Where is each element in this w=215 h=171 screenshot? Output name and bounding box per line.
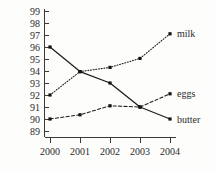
- data-point-milk: [48, 93, 51, 96]
- y-tick-label: 98: [30, 18, 40, 29]
- y-axis-tick-marks: [45, 12, 49, 132]
- data-point-milk: [138, 57, 141, 60]
- x-tick-label: 2002: [100, 146, 120, 157]
- data-point-butter: [138, 105, 141, 108]
- line-chart: 8990919293949596979899 20002001200220032…: [0, 0, 215, 171]
- x-tick-label: 2003: [130, 146, 150, 157]
- data-point-eggs: [78, 113, 81, 116]
- data-point-butter: [78, 70, 81, 73]
- x-tick-label: 2000: [40, 146, 60, 157]
- y-tick-label: 96: [30, 42, 40, 53]
- y-tick-label: 91: [30, 102, 40, 113]
- y-axis-tick-labels: 8990919293949596979899: [30, 6, 40, 137]
- y-tick-label: 93: [30, 78, 40, 89]
- series-line-milk: [50, 34, 170, 95]
- series-markers: [48, 32, 171, 120]
- series-label-milk: milk: [177, 28, 195, 39]
- data-point-butter: [168, 117, 171, 120]
- data-point-eggs: [48, 117, 51, 120]
- y-tick-label: 92: [30, 90, 40, 101]
- x-axis-tick-marks: [51, 138, 171, 143]
- x-tick-label: 2004: [160, 146, 180, 157]
- y-tick-label: 99: [30, 6, 40, 17]
- series-legend-labels: milkeggsbutter: [177, 28, 201, 124]
- y-tick-label: 97: [30, 30, 40, 41]
- series-label-eggs: eggs: [177, 88, 195, 99]
- data-point-eggs: [168, 92, 171, 95]
- data-point-butter: [108, 81, 111, 84]
- y-tick-label: 95: [30, 54, 40, 65]
- data-point-milk: [168, 32, 171, 35]
- y-tick-label: 89: [30, 126, 40, 137]
- data-point-milk: [108, 66, 111, 69]
- data-point-eggs: [108, 104, 111, 107]
- data-point-butter: [48, 45, 51, 48]
- chart-canvas: 8990919293949596979899 20002001200220032…: [0, 0, 215, 171]
- y-tick-label: 90: [30, 114, 40, 125]
- x-tick-label: 2001: [70, 146, 90, 157]
- series-label-butter: butter: [177, 114, 201, 125]
- y-tick-label: 94: [30, 66, 40, 77]
- x-axis-tick-labels: 20002001200220032004: [40, 146, 180, 157]
